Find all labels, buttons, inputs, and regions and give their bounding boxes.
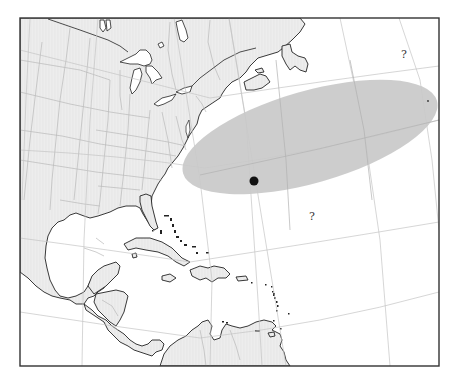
map-view[interactable]: ? ? [0,0,459,384]
map-canvas [0,0,459,384]
question-mark-label-south: ? [309,211,315,222]
small-point-marker [427,100,429,102]
puerto-rico [236,276,248,281]
question-mark-label-northeast: ? [401,49,407,60]
storm-position-marker[interactable] [250,177,259,186]
